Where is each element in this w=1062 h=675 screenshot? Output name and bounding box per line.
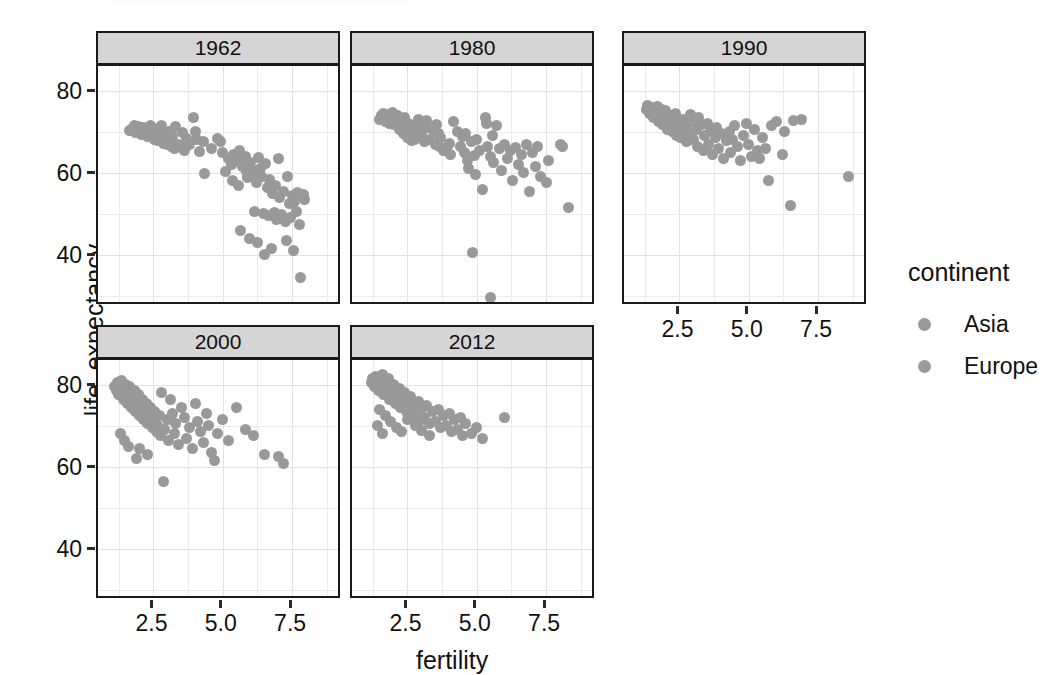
plot-area-1990 — [622, 66, 866, 304]
facet-strip-label-1990: 1990 — [622, 31, 866, 66]
gridline-horizontal — [98, 590, 338, 591]
data-point — [212, 428, 223, 439]
facet-panel-1962: 1962 — [96, 31, 340, 304]
x-axis-tick-label: 5.0 — [459, 610, 491, 637]
gridline-horizontal — [98, 426, 338, 427]
data-point — [496, 165, 507, 176]
gridline-vertical — [188, 66, 189, 302]
gridline-vertical — [442, 360, 443, 596]
legend-item-asia[interactable]: Asia — [908, 303, 1038, 345]
data-point — [557, 141, 568, 152]
gridline-horizontal — [98, 549, 338, 550]
data-point — [779, 126, 790, 137]
x-axis-tick-mark — [404, 600, 407, 608]
data-point — [281, 235, 292, 246]
y-axis-tick-mark — [87, 383, 95, 386]
data-point — [194, 146, 205, 157]
facet-strip-label-2012: 2012 — [350, 325, 594, 360]
data-point — [169, 428, 180, 439]
data-point — [735, 155, 746, 166]
data-point — [485, 292, 496, 303]
gridline-vertical — [292, 360, 293, 596]
legend-item-europe[interactable]: Europe — [908, 345, 1038, 387]
data-point — [231, 402, 242, 413]
data-point — [477, 433, 488, 444]
data-point — [424, 430, 435, 441]
gridline-horizontal — [98, 255, 338, 256]
data-point — [158, 476, 169, 487]
data-point — [507, 175, 518, 186]
gridline-horizontal — [624, 296, 864, 297]
gridline-horizontal — [98, 214, 338, 215]
data-point — [482, 141, 493, 152]
gridline-horizontal — [624, 173, 864, 174]
gridline-horizontal — [98, 296, 338, 297]
x-axis-tick-mark — [289, 600, 292, 608]
data-point — [190, 398, 201, 409]
gridline-horizontal — [352, 590, 592, 591]
gridline-vertical — [546, 360, 547, 596]
data-point — [198, 437, 209, 448]
x-axis-tick-label: 5.0 — [731, 316, 763, 343]
y-axis-tick-label: 80 — [34, 77, 82, 104]
data-point — [754, 153, 765, 164]
gridline-vertical — [153, 360, 154, 596]
data-point — [223, 435, 234, 446]
data-point — [217, 414, 228, 425]
data-point — [796, 114, 807, 125]
data-point — [785, 200, 796, 211]
legend-items: AsiaEurope — [908, 303, 1038, 387]
x-axis-tick-label: 7.5 — [528, 610, 560, 637]
data-point — [477, 184, 488, 195]
data-point — [291, 206, 302, 217]
legend-dot-icon — [918, 360, 931, 373]
y-axis-tick-mark — [87, 465, 95, 468]
data-point — [470, 169, 481, 180]
data-point — [165, 394, 176, 405]
legend: continent AsiaEurope — [908, 258, 1038, 387]
legend-item-label: Europe — [964, 353, 1038, 380]
gridline-horizontal — [624, 214, 864, 215]
data-point — [729, 120, 740, 131]
data-point — [199, 168, 210, 179]
gridline-vertical — [477, 66, 478, 302]
y-axis-tick-label: 40 — [34, 241, 82, 268]
gridline-vertical — [292, 66, 293, 302]
plot-area-2012 — [350, 360, 594, 598]
data-point — [266, 243, 277, 254]
gridline-horizontal — [352, 296, 592, 297]
plot-area-1980 — [350, 66, 594, 304]
gridline-vertical — [818, 66, 819, 302]
gridline-vertical — [119, 66, 120, 302]
y-axis-tick-label: 60 — [34, 453, 82, 480]
y-axis-tick-label: 40 — [34, 535, 82, 562]
data-point — [445, 149, 456, 160]
data-point — [471, 134, 482, 145]
data-point — [215, 136, 226, 147]
gridline-vertical — [749, 66, 750, 302]
gridline-horizontal — [98, 173, 338, 174]
data-point — [757, 132, 768, 143]
legend-dot-icon — [918, 318, 931, 331]
data-point — [252, 237, 263, 248]
gridline-horizontal — [352, 467, 592, 468]
data-point — [471, 422, 482, 433]
gridline-vertical — [223, 66, 224, 302]
data-point — [273, 153, 284, 164]
data-point — [260, 158, 271, 169]
data-point — [499, 412, 510, 423]
gridline-vertical — [581, 66, 582, 302]
data-point — [732, 141, 743, 152]
gridline-horizontal — [98, 467, 338, 468]
gridline-vertical — [442, 66, 443, 302]
x-axis-tick-mark — [543, 600, 546, 608]
x-axis-tick-mark — [815, 306, 818, 314]
data-point — [396, 426, 407, 437]
gridline-vertical — [477, 360, 478, 596]
data-point — [209, 455, 220, 466]
gridline-horizontal — [352, 214, 592, 215]
facet-panel-1980: 1980 — [350, 31, 594, 304]
data-point — [487, 130, 498, 141]
panel-inner — [98, 66, 338, 302]
